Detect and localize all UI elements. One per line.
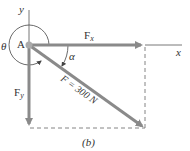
origin-point <box>26 42 33 49</box>
fx-label: Fx <box>84 29 94 43</box>
f-label: F = 300 N <box>58 72 100 107</box>
alpha-label: α <box>69 50 75 62</box>
origin-label: A <box>17 38 25 50</box>
force-diagram: y x A θ α Fx Fy F = 300 N (b) <box>0 0 190 151</box>
theta-label: θ <box>1 40 7 52</box>
caption: (b) <box>82 136 95 149</box>
f-arrow <box>29 45 142 126</box>
alpha-arc <box>62 45 68 66</box>
fy-label: Fy <box>14 86 24 100</box>
y-axis-label: y <box>18 3 24 15</box>
x-axis-label: x <box>175 46 181 58</box>
